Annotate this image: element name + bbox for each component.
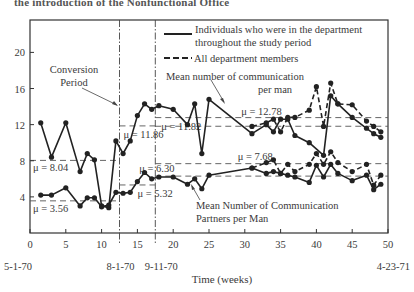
data-point (350, 169, 355, 174)
y-tick-label: 4 (20, 192, 26, 203)
mean-label: μ = 3.56 (33, 203, 68, 214)
data-point (307, 108, 312, 113)
data-point (156, 174, 161, 179)
data-series (38, 81, 383, 211)
data-point (85, 151, 90, 156)
data-point (350, 178, 355, 183)
mean-label: μ = 11.82 (161, 121, 201, 132)
data-point (142, 170, 147, 175)
x-tick-label: 0 (27, 239, 32, 250)
x-axis-label: Time (weeks) (192, 273, 253, 286)
data-point (171, 174, 176, 179)
data-point (335, 160, 340, 165)
data-point (185, 122, 190, 127)
data-point (135, 179, 140, 184)
data-point (271, 157, 276, 162)
data-point (335, 101, 340, 106)
data-point (185, 182, 190, 187)
data-point (328, 81, 333, 86)
data-point (63, 185, 68, 190)
data-point (120, 151, 125, 156)
mean-label: μ = 5.32 (138, 188, 173, 199)
date-label: 8-1-70 (107, 261, 135, 272)
data-point (85, 195, 90, 200)
data-point (314, 151, 319, 156)
data-point (321, 153, 326, 158)
data-point (321, 124, 326, 129)
data-point (156, 103, 161, 108)
annotation-mean-comm: per man (258, 84, 293, 95)
legend-label: Individuals who were in the department (195, 24, 362, 35)
data-point (264, 160, 269, 165)
data-point (378, 129, 383, 134)
data-point (292, 115, 297, 120)
mean-lines: μ = 8.04μ = 11.86μ = 11.82μ = 12.78μ = 3… (30, 106, 388, 214)
data-point (328, 149, 333, 154)
data-point (364, 162, 369, 167)
data-point (199, 151, 204, 156)
data-point (292, 133, 297, 138)
data-point (278, 129, 283, 134)
data-point (149, 107, 154, 112)
data-point (350, 102, 355, 107)
annotation-partners: Partners per Man (196, 213, 269, 224)
data-point (249, 124, 254, 129)
x-tick-label: 35 (275, 239, 286, 250)
arrowhead-icon (112, 101, 118, 106)
data-point (371, 187, 376, 192)
data-point (371, 131, 376, 136)
data-point (78, 169, 83, 174)
data-point (321, 162, 326, 167)
x-tick-label: 20 (168, 239, 179, 250)
date-label: 4-23-71 (377, 261, 410, 272)
mean-label: μ = 12.78 (241, 106, 281, 117)
data-point (378, 182, 383, 187)
x-tick-label: 30 (240, 239, 251, 250)
data-point (378, 173, 383, 178)
legend-label: All department members (194, 53, 298, 64)
data-point (199, 186, 204, 191)
x-tick-label: 45 (347, 239, 358, 250)
x-tick-label: 10 (96, 239, 107, 250)
x-tick-label: 50 (383, 239, 394, 250)
data-point (171, 107, 176, 112)
annotation-arrow (82, 88, 117, 105)
x-tick-label: 40 (311, 239, 322, 250)
data-point (99, 204, 104, 209)
data-point (38, 120, 43, 125)
annotation-conversion: Period (60, 77, 88, 88)
x-tick-label: 15 (132, 239, 143, 250)
data-point (285, 162, 290, 167)
data-point (307, 180, 312, 185)
line-chart: μ = 8.04μ = 11.86μ = 11.82μ = 12.78μ = 3… (0, 0, 414, 292)
data-point (292, 169, 297, 174)
data-point (249, 165, 254, 170)
x-tick-label: 25 (204, 239, 215, 250)
data-point (328, 162, 333, 167)
data-point (271, 129, 276, 134)
mean-label: μ = 8.04 (33, 162, 69, 173)
data-point (371, 183, 376, 188)
data-point (63, 120, 68, 125)
arrowhead-icon (220, 98, 225, 104)
annotation-conversion: Conversion (50, 64, 99, 75)
data-point (192, 101, 197, 106)
date-label: 5-1-70 (4, 261, 32, 272)
y-tick-label: 16 (15, 84, 26, 95)
data-point (321, 174, 326, 179)
data-point (271, 117, 276, 122)
data-point (264, 120, 269, 125)
data-point (285, 173, 290, 178)
data-point (113, 190, 118, 195)
data-point (128, 190, 133, 195)
data-point (364, 173, 369, 178)
annotation-mean-comm: Mean number of communication (166, 71, 305, 82)
data-point (106, 202, 111, 207)
annotation-partners: Mean Number of Communication (196, 200, 339, 211)
data-point (128, 138, 133, 143)
data-point (271, 169, 276, 174)
data-point (278, 117, 283, 122)
data-point (371, 124, 376, 129)
data-point (92, 195, 97, 200)
data-point (135, 113, 140, 118)
